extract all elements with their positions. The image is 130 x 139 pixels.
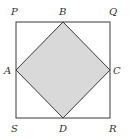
inner-square-abcd bbox=[16, 22, 110, 118]
label-d: D bbox=[58, 123, 67, 134]
label-a: A bbox=[3, 65, 11, 76]
label-p: P bbox=[10, 6, 18, 17]
label-c: C bbox=[113, 65, 121, 76]
label-b: B bbox=[58, 6, 66, 17]
label-s: S bbox=[11, 123, 18, 134]
label-r: R bbox=[108, 123, 117, 134]
label-q: Q bbox=[109, 6, 117, 17]
diagram-canvas: P B Q A C S D R bbox=[0, 0, 130, 139]
